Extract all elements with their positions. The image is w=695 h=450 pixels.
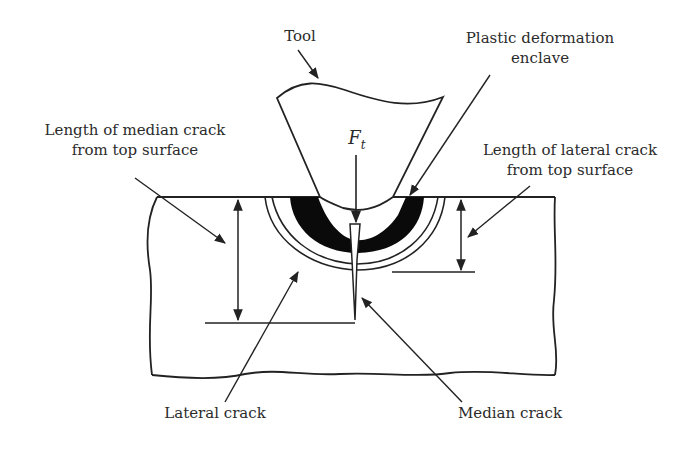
median-length-label-line2: from top surface xyxy=(25,140,245,160)
median-length-label-line1: Length of median crack xyxy=(25,120,245,140)
indentation-crack-diagram: Tool Plastic deformation enclave Length … xyxy=(0,0,695,450)
median-crack xyxy=(350,224,360,320)
force-symbol: F xyxy=(348,127,361,148)
force-label: Ft xyxy=(342,128,372,155)
lateral-length-label-line2: from top surface xyxy=(460,160,680,180)
lateral-length-label: Length of lateral crack from top surface xyxy=(460,140,680,180)
plastic-deformation-label-line1: Plastic deformation xyxy=(440,28,640,48)
tool-label: Tool xyxy=(270,26,330,46)
plastic-deformation-label-line2: enclave xyxy=(440,48,640,68)
median-length-label: Length of median crack from top surface xyxy=(25,120,245,160)
plastic-deformation-label: Plastic deformation enclave xyxy=(440,28,640,68)
force-subscript: t xyxy=(361,138,366,152)
median-crack-label: Median crack xyxy=(445,403,575,423)
lateral-length-label-line1: Length of lateral crack xyxy=(460,140,680,160)
lateral-crack-label: Lateral crack xyxy=(150,403,280,423)
